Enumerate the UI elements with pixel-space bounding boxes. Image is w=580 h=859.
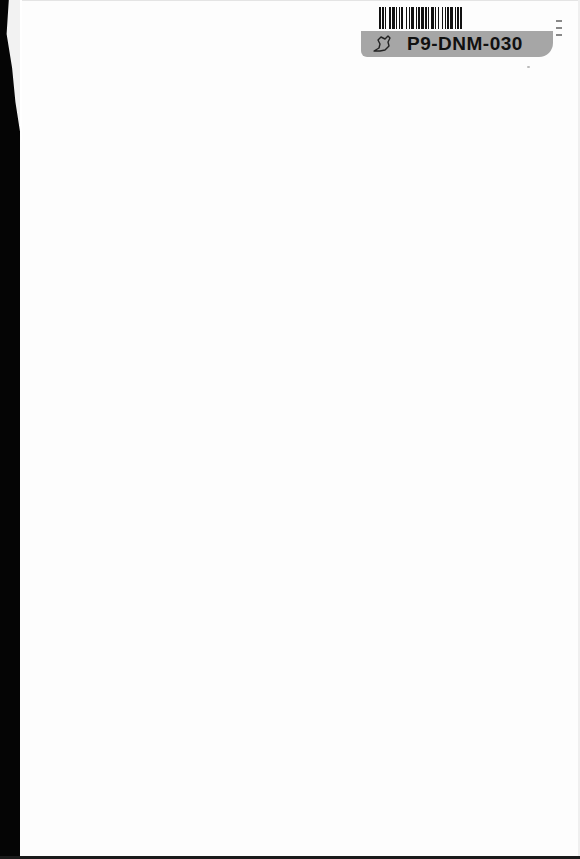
edge-marks [556, 20, 562, 50]
scanned-page: P9-DNM-030 [0, 0, 580, 859]
page-top-edge [20, 0, 580, 1]
leaf-outline-icon [367, 31, 397, 57]
barcode-sticker: P9-DNM-030 [361, 7, 553, 57]
binding-shadow [0, 0, 20, 859]
barcode-label-band: P9-DNM-030 [361, 31, 553, 57]
barcode [379, 7, 541, 29]
barcode-bar [460, 7, 462, 29]
barcode-label-text: P9-DNM-030 [407, 33, 523, 55]
paper-speck [527, 66, 530, 68]
